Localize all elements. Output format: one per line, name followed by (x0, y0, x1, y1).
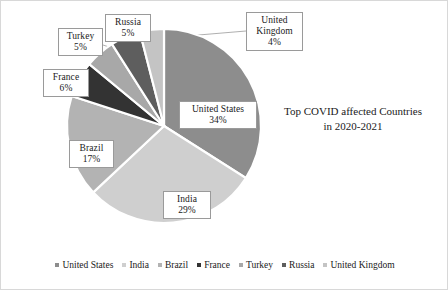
callout-russia[interactable]: Russia 5% (105, 14, 151, 42)
legend-label: India (129, 260, 149, 270)
legend-swatch-icon (282, 263, 286, 267)
legend-item-united-kingdom[interactable]: United Kingdom (323, 260, 394, 270)
legend-label: France (204, 260, 230, 270)
chart-title-line-2: in 2020-2021 (263, 119, 443, 134)
legend-swatch-icon (122, 263, 126, 267)
callout-label-france: France (48, 72, 84, 83)
chart-title-line-1: Top COVID affected Countries (284, 105, 422, 117)
legend-item-india[interactable]: India (122, 260, 149, 270)
callout-value-united-kingdom: 4% (251, 37, 298, 48)
callout-value-brazil: 17% (74, 154, 109, 165)
chart-legend: United StatesIndiaBrazilFranceTurkeyRuss… (1, 253, 448, 277)
legend-item-france[interactable]: France (197, 260, 230, 270)
legend-label: Brazil (165, 260, 188, 270)
legend-swatch-icon (197, 263, 201, 267)
callout-brazil[interactable]: Brazil 17% (69, 140, 114, 168)
callout-label-united-kingdom-line2: Kingdom (251, 26, 298, 37)
callout-united-states[interactable]: United States 34% (179, 101, 257, 129)
legend-item-turkey[interactable]: Turkey (239, 260, 273, 270)
callout-united-kingdom[interactable]: United Kingdom 4% (246, 12, 303, 51)
legend-label: Turkey (246, 260, 273, 270)
callout-label-russia: Russia (110, 17, 146, 28)
legend-item-brazil[interactable]: Brazil (158, 260, 188, 270)
legend-swatch-icon (158, 263, 162, 267)
callout-turkey[interactable]: Turkey 5% (58, 28, 103, 56)
callout-value-india: 29% (168, 205, 206, 216)
legend-label: Russia (289, 260, 314, 270)
pie-chart-figure: United States 34% India 29% Brazil 17% F… (0, 0, 448, 290)
legend-swatch-icon (239, 263, 243, 267)
chart-title: Top COVID affected Countries in 2020-202… (263, 104, 443, 134)
chart-plot-area: United States 34% India 29% Brazil 17% F… (1, 1, 448, 249)
callout-label-turkey: Turkey (63, 31, 98, 42)
legend-item-russia[interactable]: Russia (282, 260, 314, 270)
callout-value-russia: 5% (110, 28, 146, 39)
legend-swatch-icon (323, 263, 327, 267)
callout-value-france: 6% (48, 83, 84, 94)
callout-label-united-states: United States (184, 104, 252, 115)
legend-label: United Kingdom (330, 260, 394, 270)
callout-label-united-kingdom-line1: United (251, 15, 298, 26)
callout-label-brazil: Brazil (74, 143, 109, 154)
callout-france[interactable]: France 6% (43, 69, 89, 97)
callout-value-united-states: 34% (184, 115, 252, 126)
callout-india[interactable]: India 29% (163, 191, 211, 219)
legend-swatch-icon (55, 263, 59, 267)
callout-value-turkey: 5% (63, 42, 98, 53)
legend-label: United States (62, 260, 113, 270)
callout-label-india: India (168, 194, 206, 205)
legend-item-united-states[interactable]: United States (55, 260, 113, 270)
